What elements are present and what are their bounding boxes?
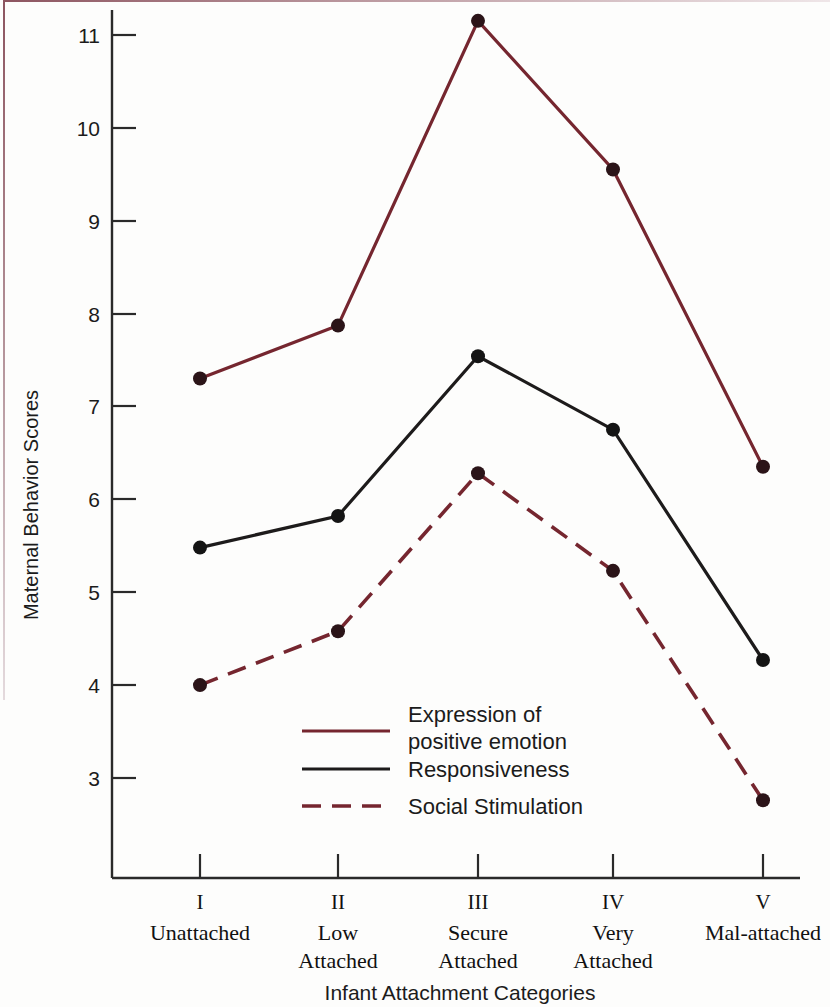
- data-point-marker: [471, 349, 485, 363]
- data-point-marker: [193, 678, 207, 692]
- x-label-name-2-line1: Low: [318, 920, 358, 945]
- data-point-marker: [331, 509, 345, 523]
- series-line-1: [200, 356, 763, 660]
- x-label-roman-3: III: [468, 890, 489, 914]
- y-axis-tick-labels: 11 10 9 8 7 6 5 4 3: [77, 24, 101, 790]
- x-label-name-3-line1: Secure: [448, 920, 508, 945]
- data-point-marker: [193, 541, 207, 555]
- legend-label-responsiveness: Responsiveness: [408, 757, 569, 782]
- data-point-marker: [331, 319, 345, 333]
- y-axis-title: Maternal Behavior Scores: [20, 390, 42, 620]
- x-label-name-3-line2: Attached: [438, 948, 517, 973]
- y-tick-label-9: 9: [88, 210, 100, 233]
- data-point-marker: [756, 653, 770, 667]
- x-label-roman-4: IV: [602, 890, 624, 914]
- legend-label-expression-line2: positive emotion: [408, 729, 567, 754]
- data-point-marker: [606, 163, 620, 177]
- data-series-layer: [193, 14, 770, 807]
- x-label-name-4-line2: Attached: [573, 948, 652, 973]
- y-tick-label-11: 11: [78, 24, 100, 47]
- y-tick-label-7: 7: [88, 395, 100, 418]
- data-point-marker: [606, 423, 620, 437]
- x-label-roman-2: II: [331, 890, 345, 914]
- y-tick-label-6: 6: [88, 488, 100, 511]
- legend-label-expression-line1: Expression of: [408, 702, 542, 727]
- x-label-name-4-line1: Very: [592, 920, 634, 945]
- x-label-roman-5: V: [755, 890, 770, 914]
- y-tick-label-10: 10: [77, 117, 100, 140]
- data-point-marker: [331, 624, 345, 638]
- chart-legend: Expression of positive emotion Responsiv…: [302, 702, 583, 819]
- x-axis-category-names: Unattached Low Attached Secure Attached …: [150, 920, 821, 973]
- x-axis-title: Infant Attachment Categories: [325, 981, 596, 1004]
- figure-container: 11 10 9 8 7 6 5 4 3 Maternal Behavior Sc…: [0, 0, 830, 1007]
- x-label-name-2-line2: Attached: [298, 948, 377, 973]
- data-point-marker: [606, 564, 620, 578]
- y-tick-label-5: 5: [88, 581, 100, 604]
- legend-label-social-stimulation: Social Stimulation: [408, 794, 583, 819]
- data-point-marker: [471, 14, 485, 28]
- x-axis-ticks: [200, 854, 763, 878]
- data-point-marker: [471, 466, 485, 480]
- x-label-name-5-line1: Mal-attached: [705, 920, 821, 945]
- y-axis-ticks: [112, 35, 136, 778]
- x-axis-roman-labels: I II III IV V: [197, 890, 771, 914]
- data-point-marker: [193, 372, 207, 386]
- y-tick-label-3: 3: [88, 767, 100, 790]
- series-line-0: [200, 21, 763, 467]
- y-tick-label-4: 4: [88, 674, 100, 697]
- x-label-roman-1: I: [197, 890, 204, 914]
- line-chart: 11 10 9 8 7 6 5 4 3 Maternal Behavior Sc…: [0, 0, 830, 1007]
- data-point-marker: [756, 460, 770, 474]
- y-tick-label-8: 8: [88, 303, 100, 326]
- data-point-marker: [756, 793, 770, 807]
- x-label-name-1-line1: Unattached: [150, 920, 250, 945]
